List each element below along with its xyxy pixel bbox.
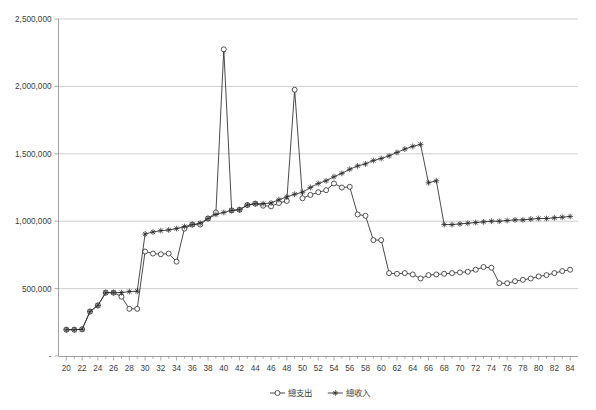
data-point-marker	[378, 156, 384, 162]
line-chart: -500,0001,000,0001,500,0002,000,0002,500…	[0, 0, 596, 410]
y-tick-label: 2,000,000	[15, 82, 52, 91]
data-point-marker	[449, 222, 455, 228]
data-point-marker	[513, 279, 518, 284]
data-point-marker	[426, 273, 431, 278]
data-point-marker	[512, 217, 518, 223]
data-point-marker	[379, 238, 384, 243]
data-point-marker	[457, 221, 463, 227]
data-point-marker	[134, 288, 140, 294]
series-line	[66, 144, 570, 329]
data-point-marker	[355, 163, 361, 169]
data-point-marker	[551, 215, 557, 221]
legend-label: 總收入	[346, 388, 371, 398]
data-point-marker	[544, 216, 550, 222]
data-point-marker	[71, 327, 77, 333]
x-tick-label: 50	[298, 364, 308, 373]
y-tick-label: 1,000,000	[15, 217, 52, 226]
data-point-marker	[450, 271, 455, 276]
x-tick-label: 32	[156, 364, 166, 373]
data-point-marker	[275, 391, 280, 396]
x-tick-label: 44	[251, 364, 261, 373]
data-point-marker	[300, 189, 306, 195]
x-tick-label: 62	[392, 364, 402, 373]
data-point-marker	[135, 306, 140, 311]
data-point-marker	[504, 218, 510, 224]
x-tick-label: 42	[235, 364, 245, 373]
y-axis-ticks	[55, 19, 59, 356]
legend-item: 總支出	[270, 388, 312, 398]
x-tick-label: 38	[203, 364, 213, 373]
data-point-marker	[315, 181, 321, 187]
data-point-marker	[473, 220, 479, 226]
data-point-marker	[268, 200, 274, 206]
data-point-marker	[331, 174, 337, 180]
data-point-marker	[111, 290, 117, 296]
data-point-marker	[339, 170, 345, 176]
data-point-marker	[410, 272, 415, 277]
x-tick-label: 58	[361, 364, 371, 373]
x-tick-label: 78	[518, 364, 528, 373]
data-point-marker	[489, 265, 494, 270]
data-point-marker	[339, 185, 344, 190]
data-point-marker	[567, 214, 573, 220]
x-tick-label: 46	[266, 364, 276, 373]
data-point-marker	[292, 191, 298, 197]
y-axis-labels: -500,0001,000,0001,500,0002,000,0002,500…	[15, 15, 52, 361]
x-tick-label: 26	[109, 364, 119, 373]
data-point-marker	[370, 158, 376, 164]
data-point-marker	[489, 218, 495, 224]
data-point-marker	[221, 47, 226, 52]
data-point-marker	[465, 269, 470, 274]
x-tick-label: 82	[550, 364, 560, 373]
data-point-marker	[434, 272, 439, 277]
data-point-marker	[197, 220, 203, 226]
data-point-marker	[559, 214, 565, 220]
legend-label: 總支出	[288, 388, 312, 398]
data-point-marker	[127, 306, 132, 311]
data-point-marker	[544, 273, 549, 278]
data-point-marker	[552, 271, 557, 276]
data-point-marker	[237, 207, 243, 213]
x-tick-label: 84	[566, 364, 576, 373]
x-tick-label: 34	[172, 364, 182, 373]
data-point-marker	[568, 267, 573, 272]
data-point-marker	[252, 201, 258, 207]
data-point-marker	[528, 216, 534, 222]
x-axis-labels: 2022242628303234363840424446485052545658…	[62, 364, 575, 373]
data-point-marker	[213, 212, 219, 218]
data-point-marker	[347, 184, 352, 189]
x-tick-label: 66	[424, 364, 434, 373]
x-tick-label: 54	[329, 364, 339, 373]
data-point-marker	[150, 229, 156, 235]
data-point-marker	[323, 178, 329, 184]
data-point-marker	[150, 251, 155, 256]
data-point-marker	[481, 219, 487, 225]
x-tick-label: 52	[314, 364, 324, 373]
data-point-marker	[126, 289, 132, 295]
x-tick-label: 24	[93, 364, 103, 373]
data-point-marker	[158, 228, 164, 234]
data-point-marker	[316, 190, 321, 195]
data-point-marker	[166, 227, 172, 233]
data-point-marker	[332, 390, 338, 396]
x-tick-label: 70	[455, 364, 465, 373]
series-total-income	[63, 141, 573, 332]
data-point-marker	[536, 216, 542, 222]
data-point-marker	[174, 259, 179, 264]
data-point-marker	[284, 194, 290, 200]
x-tick-label: 48	[282, 364, 292, 373]
x-tick-label: 30	[141, 364, 151, 373]
data-point-marker	[189, 222, 195, 228]
data-point-marker	[386, 153, 392, 159]
gridlines-group	[59, 19, 579, 289]
data-point-marker	[402, 146, 408, 152]
x-tick-label: 40	[219, 364, 229, 373]
data-point-marker	[387, 271, 392, 276]
data-point-marker	[505, 281, 510, 286]
data-point-marker	[536, 274, 541, 279]
data-point-marker	[245, 202, 251, 208]
data-point-marker	[300, 196, 305, 201]
y-tick-label: -	[49, 352, 52, 361]
y-tick-label: 1,500,000	[15, 150, 52, 159]
data-point-marker	[418, 276, 423, 281]
